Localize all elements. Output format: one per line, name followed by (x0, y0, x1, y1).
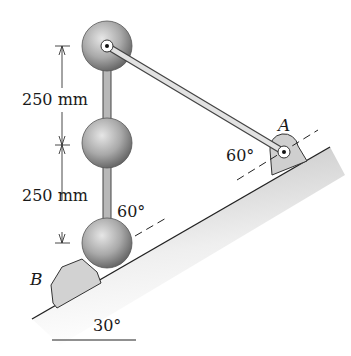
sphere-middle (82, 118, 132, 168)
angle-label-bottom: 60° (117, 202, 145, 221)
dimension-lines (55, 46, 70, 243)
angle-label-A: 60° (226, 146, 254, 165)
pin-top (101, 40, 113, 52)
sphere-bottom (82, 218, 132, 268)
incline-ground (32, 147, 345, 345)
diagram: 250 mm 250 mm 60° 60° A B 30° (0, 0, 351, 356)
diagram-svg (0, 0, 351, 356)
point-label-B: B (30, 269, 43, 289)
link-to-A (107, 46, 284, 152)
dimension-label-upper: 250 mm (22, 90, 88, 109)
incline-angle-label: 30° (93, 316, 121, 335)
point-label-A: A (278, 115, 290, 135)
dimension-label-lower: 250 mm (22, 186, 88, 205)
pin-A (278, 146, 290, 158)
